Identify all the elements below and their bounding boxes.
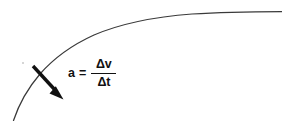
fraction-bar (91, 73, 116, 75)
fraction-numerator: Δv (95, 58, 113, 71)
velocity-time-curve (14, 12, 283, 121)
equals-sign: = (79, 67, 86, 80)
fraction-denominator: Δt (96, 76, 111, 89)
variable-a: a (68, 67, 75, 80)
acceleration-formula: a = Δv Δt (68, 58, 116, 89)
figure-canvas (0, 0, 282, 121)
acceleration-arrow (33, 66, 64, 100)
acceleration-figure: a = Δv Δt (0, 0, 282, 121)
delta-fraction: Δv Δt (91, 58, 116, 89)
paper-speck (22, 62, 24, 64)
